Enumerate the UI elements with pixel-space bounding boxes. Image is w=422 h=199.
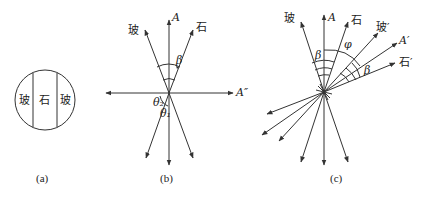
label-glass: 玻 (284, 12, 295, 25)
label-stone: 石 (351, 14, 362, 27)
label-beta-left: β (314, 49, 321, 62)
label-phi: φ (344, 38, 352, 51)
label-glass-prime: 玻′ (376, 21, 390, 34)
region-stone: 石 (39, 94, 50, 107)
label-axis-A-prime: A′ (398, 34, 410, 47)
diagram-canvas: 玻 石 玻 (a) 玻 A 石 β A″ θ₂ θ₁ (b) (0, 0, 422, 199)
label-beta: β (175, 54, 182, 67)
region-glass-left: 玻 (19, 94, 30, 107)
label-axis-A-double-prime: A″ (235, 86, 249, 99)
label-stone-prime: 石′ (399, 56, 413, 69)
ray-stone-prime (324, 63, 395, 92)
caption-c: (c) (330, 172, 343, 185)
caption-a: (a) (36, 172, 49, 185)
label-theta1: θ₁ (160, 107, 171, 120)
panel-b: 玻 A 石 β A″ θ₂ θ₁ (b) (106, 11, 249, 185)
ray-glass-up (145, 30, 169, 93)
label-beta-right: β (363, 64, 370, 77)
label-stone: 石 (196, 21, 207, 34)
ray-glass-prime-down (279, 92, 324, 141)
ray-stone-down (169, 93, 193, 158)
label-axis-A: A (327, 11, 336, 24)
region-glass-right: 玻 (60, 94, 71, 107)
ray-A-prime-down (262, 92, 324, 135)
panel-a: 玻 石 玻 (a) (15, 70, 75, 185)
ray-stone-down (324, 92, 348, 162)
caption-b: (b) (160, 172, 173, 185)
ray-glass-down (301, 92, 324, 162)
ray-stone-prime-down (267, 92, 324, 114)
panel-c: 玻 A 石 玻′ A′ 石′ β φ β (c) (262, 11, 413, 185)
label-axis-A: A (171, 11, 180, 24)
label-glass: 玻 (128, 24, 139, 37)
ray-stone-up (324, 22, 348, 92)
